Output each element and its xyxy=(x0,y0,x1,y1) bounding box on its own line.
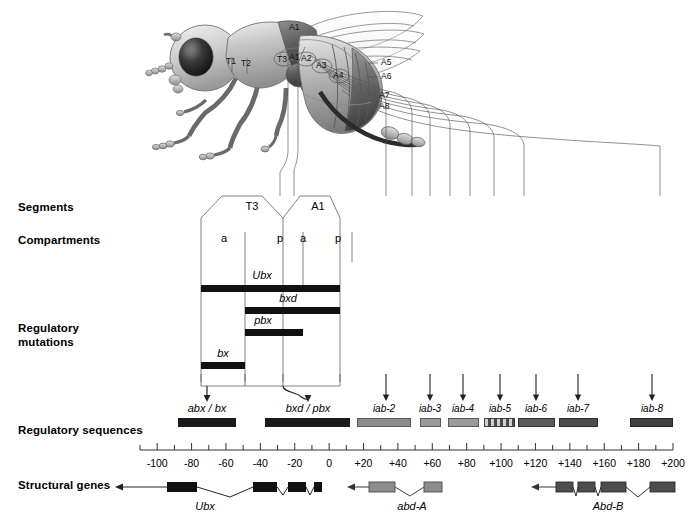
gene-label-abd-a: abd-A xyxy=(397,500,426,512)
gene-abd-a-graphic xyxy=(347,482,442,496)
gene-label-abd-b: Abd-B xyxy=(593,500,624,512)
gene-ubx-graphic xyxy=(115,482,322,497)
structural-genes-track xyxy=(0,0,689,521)
gene-abd-b-graphic xyxy=(531,482,675,497)
gene-label-ubx: Ubx xyxy=(195,500,215,512)
figure-root: T1 T2 T3 A1 A2 A3 A4 A5 A6 A7 A8 A1 Segm… xyxy=(0,0,689,521)
